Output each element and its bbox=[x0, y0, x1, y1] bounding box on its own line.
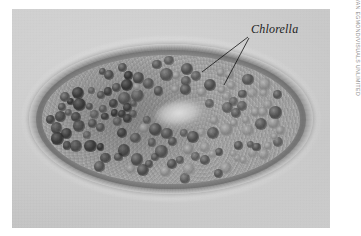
chlorella-cell bbox=[131, 153, 144, 166]
chlorella-cell bbox=[97, 143, 104, 150]
chlorella-label: Chlorella bbox=[251, 22, 298, 37]
chlorella-cell bbox=[152, 60, 161, 69]
chlorella-cell bbox=[164, 56, 174, 66]
chlorella-cell bbox=[259, 149, 269, 159]
chlorella-cell bbox=[60, 92, 70, 102]
chlorella-cell bbox=[209, 150, 216, 157]
chlorella-cell bbox=[230, 119, 238, 127]
chlorella-cell bbox=[197, 87, 207, 97]
chlorella-cell bbox=[71, 112, 81, 122]
chlorella-cell bbox=[113, 117, 122, 126]
chlorella-cell bbox=[154, 86, 163, 95]
chlorella-cell bbox=[242, 116, 250, 124]
chlorella-cell bbox=[276, 126, 284, 134]
photo-credit: WIM VAN EGMOND/VISUALS UNLIMITED bbox=[355, 0, 361, 96]
chlorella-cell bbox=[109, 99, 118, 108]
chlorella-cell bbox=[72, 87, 84, 99]
chlorella-cell bbox=[118, 144, 130, 156]
chlorella-cell bbox=[264, 142, 271, 149]
chlorella-cell bbox=[133, 72, 145, 84]
chlorella-cell bbox=[155, 145, 168, 158]
chlorella-cell bbox=[255, 118, 268, 131]
chlorella-cell bbox=[172, 71, 181, 80]
chlorella-cell bbox=[273, 90, 282, 99]
chlorella-cell bbox=[117, 128, 127, 138]
chlorella-cell bbox=[225, 70, 233, 78]
chlorella-cell bbox=[83, 131, 91, 139]
chlorella-cell bbox=[111, 109, 118, 116]
chlorella-cell bbox=[160, 68, 173, 81]
chlorella-cell bbox=[130, 133, 140, 143]
chlorella-cell bbox=[86, 103, 93, 110]
chlorella-cell bbox=[238, 90, 247, 99]
chlorella-cell bbox=[70, 140, 82, 152]
chlorella-cell bbox=[167, 159, 176, 168]
chlorella-cell bbox=[58, 103, 66, 111]
chlorella-cell bbox=[200, 142, 210, 152]
chlorella-cell bbox=[46, 115, 55, 124]
chlorella-cell bbox=[104, 87, 113, 96]
cytoplasm bbox=[42, 55, 300, 184]
chlorella-cell bbox=[149, 123, 162, 136]
chlorella-cell bbox=[191, 152, 200, 161]
chlorella-cell bbox=[230, 150, 238, 158]
chlorella-cell bbox=[200, 155, 210, 165]
chlorella-cell bbox=[94, 161, 105, 172]
chlorella-cell bbox=[205, 99, 214, 108]
chlorella-cell bbox=[269, 106, 282, 119]
paramecium-cell bbox=[20, 35, 322, 203]
chlorella-cell bbox=[187, 131, 199, 143]
chlorella-cell bbox=[118, 63, 127, 72]
chlorella-cell bbox=[191, 71, 201, 81]
chlorella-cell bbox=[234, 141, 243, 150]
chlorella-cell bbox=[215, 148, 223, 156]
chlorella-cell bbox=[148, 138, 157, 147]
chlorella-cell bbox=[217, 68, 225, 76]
chlorella-cell bbox=[242, 125, 253, 136]
chlorella-cell bbox=[227, 81, 236, 90]
chlorella-cell bbox=[183, 163, 194, 174]
chlorella-cell bbox=[84, 140, 96, 152]
chlorella-cell bbox=[73, 120, 85, 132]
chlorella-cell bbox=[168, 137, 177, 146]
chlorella-cell bbox=[258, 107, 268, 117]
chlorella-cell bbox=[133, 83, 141, 91]
chlorella-cell bbox=[99, 105, 107, 113]
micrograph-plate bbox=[12, 9, 330, 228]
chlorella-cell bbox=[171, 85, 180, 94]
chlorella-cell bbox=[180, 84, 190, 94]
